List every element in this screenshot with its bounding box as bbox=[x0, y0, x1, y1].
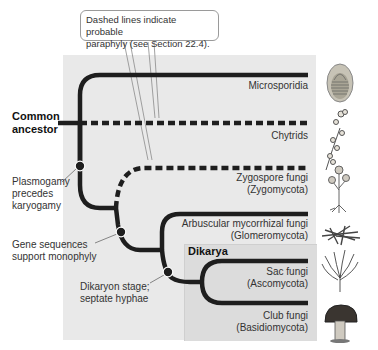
taxon-arbuscular-mycorrhizal-fungi: Arbuscular mycorrhizal fungi (Glomeromyc… bbox=[182, 218, 308, 242]
callout-line-1: Dashed lines indicate probable bbox=[86, 14, 213, 38]
taxon-name: Chytrids bbox=[271, 130, 308, 142]
taxon-sac-fungi: Sac fungi (Ascomycota) bbox=[247, 266, 308, 290]
taxon-club-fungi: Club fungi (Basidiomycota) bbox=[236, 310, 308, 334]
taxon-name: Zygospore fungi bbox=[236, 172, 308, 184]
node-label-line: Gene sequences bbox=[12, 239, 97, 251]
node-label-plasmogamy: Plasmogamy precedes karyogamy bbox=[12, 176, 70, 212]
node-gene-sequences bbox=[116, 227, 126, 237]
zygospore-fungus-icon bbox=[329, 166, 350, 213]
callout-line-2: paraphyly (see Section 22.4). bbox=[86, 38, 213, 50]
taxon-chytrids: Chytrids bbox=[271, 130, 308, 142]
taxon-name: Arbuscular mycorrhizal fungi bbox=[182, 218, 308, 230]
node-dikaryon bbox=[163, 267, 173, 277]
callout-pointers bbox=[124, 42, 159, 160]
node-plasmogamy bbox=[75, 161, 85, 171]
common-ancestor-line-1: Common bbox=[12, 110, 60, 123]
mycorrhizal-fungus-icon bbox=[322, 226, 360, 245]
taxon-phylum: (Zygomycota) bbox=[236, 184, 308, 196]
node-label-line: Plasmogamy bbox=[12, 176, 70, 188]
common-ancestor-label: Common ancestor bbox=[12, 110, 60, 136]
sac-fungus-icon bbox=[322, 250, 358, 292]
mushroom-icon bbox=[325, 305, 357, 343]
node-label-line: precedes bbox=[12, 188, 70, 200]
node-label-dikaryon: Dikaryon stage; septate hyphae bbox=[80, 281, 149, 305]
node-label-gene-sequences: Gene sequences support monophyly bbox=[12, 239, 97, 263]
taxon-name: Club fungi bbox=[236, 310, 308, 322]
microsporidia-spore-icon bbox=[327, 64, 353, 102]
node-label-line: support monophyly bbox=[12, 251, 97, 263]
taxon-zygospore-fungi: Zygospore fungi (Zygomycota) bbox=[236, 172, 308, 196]
taxon-name: Microsporidia bbox=[249, 80, 308, 92]
trunk-lower bbox=[80, 123, 116, 208]
taxon-name: Sac fungi bbox=[247, 266, 308, 278]
taxon-phylum: (Ascomycota) bbox=[247, 278, 308, 290]
node-label-line: Dikaryon stage; bbox=[80, 281, 149, 293]
node-label-line: septate hyphae bbox=[80, 293, 149, 305]
node-label-line: karyogamy bbox=[12, 200, 70, 212]
common-ancestor-line-2: ancestor bbox=[12, 123, 60, 136]
paraphyly-callout: Dashed lines indicate probable paraphyly… bbox=[80, 10, 219, 41]
taxon-microsporidia: Microsporidia bbox=[249, 80, 308, 92]
taxon-phylum: (Basidiomycota) bbox=[236, 322, 308, 334]
phylogenetic-tree bbox=[0, 0, 378, 350]
chytrid-icon bbox=[326, 110, 348, 171]
taxon-phylum: (Glomeromycota) bbox=[182, 230, 308, 242]
